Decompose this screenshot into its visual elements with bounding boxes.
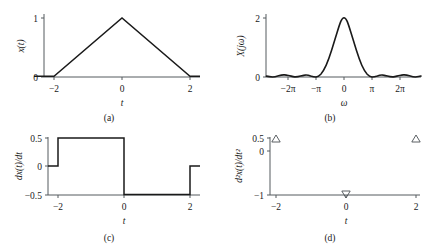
triangular-pulse-curve: [34, 18, 200, 76]
panel-c-axes: [45, 137, 200, 198]
panel-c-plot: −0.5 0 0.5 −2 0 2 t dx(t)/dt (c): [0, 124, 218, 249]
y-axis-label: X(jω): [236, 35, 247, 57]
x-tick-label-neg2pi: −2π: [281, 84, 296, 94]
x-tick-label-2: 2: [188, 84, 193, 94]
panel-a: 0 1 −2 0 2 t x(t) (a): [0, 0, 218, 125]
y-axis-label: d²x(t)/dt²: [234, 149, 245, 183]
y-axis-label: dx(t)/dt: [14, 152, 25, 180]
y-tick-label-1: 1: [33, 14, 38, 24]
y-tick-label-0: 0: [33, 73, 38, 83]
impulse-marker-2: [412, 135, 420, 142]
derivative-square-curve: [48, 138, 200, 194]
y-axis-label: x(t): [16, 39, 27, 53]
figure-container: 0 1 −2 0 2 t x(t) (a) 0 2: [0, 0, 435, 249]
x-tick-label-2pi: 2π: [395, 84, 405, 94]
y-tick-label-0: 0: [259, 147, 264, 157]
impulse-marker-neg2: [272, 135, 280, 142]
panel-b-axes: [263, 14, 421, 80]
panel-d-plot: −1 0 0.5 −2 0 2 t d²x(t)/dt² (d): [218, 124, 435, 249]
y-tick-label-2: 2: [255, 14, 260, 24]
panel-a-axes: [41, 14, 200, 80]
x-tick-label-2: 2: [188, 202, 193, 212]
y-tick-label-neg05: −0.5: [25, 191, 42, 201]
x-tick-label-neg2: −2: [49, 84, 59, 94]
panel-d-axes: [267, 137, 420, 198]
x-tick-label-pi: π: [370, 84, 375, 94]
x-tick-label-0: 0: [342, 84, 347, 94]
panel-b: 0 2 −2π −π 0 π 2π ω X(jω) (b): [218, 0, 435, 125]
panel-c: −0.5 0 0.5 −2 0 2 t dx(t)/dt (c): [0, 124, 218, 249]
y-tick-label-0: 0: [37, 162, 42, 172]
panel-a-plot: 0 1 −2 0 2 t x(t) (a): [0, 0, 218, 125]
panel-label-d: (d): [324, 233, 335, 244]
x-tick-label-0: 0: [344, 202, 349, 212]
panel-label-b: (b): [324, 113, 335, 124]
y-tick-label-05: 0.5: [30, 134, 42, 144]
panel-b-plot: 0 2 −2π −π 0 π 2π ω X(jω) (b): [218, 0, 435, 125]
x-tick-label-0: 0: [122, 202, 127, 212]
x-tick-label-2: 2: [414, 202, 419, 212]
x-tick-label-negpi: −π: [311, 84, 321, 94]
x-axis-label: t: [123, 216, 126, 226]
y-tick-label-neg1: −1: [254, 191, 264, 201]
y-tick-label-0: 0: [255, 73, 260, 83]
x-axis-label: t: [345, 216, 348, 226]
y-tick-label-05: 0.5: [252, 134, 264, 144]
x-tick-label-0: 0: [120, 84, 125, 94]
panel-label-c: (c): [104, 233, 115, 244]
x-tick-label-neg2: −2: [53, 202, 63, 212]
x-axis-label: ω: [341, 98, 348, 108]
spectrum-curve: [267, 18, 422, 77]
x-tick-label-neg2: −2: [271, 202, 281, 212]
panel-d: −1 0 0.5 −2 0 2 t d²x(t)/dt² (d): [218, 124, 435, 249]
panel-label-a: (a): [104, 113, 115, 124]
x-axis-label: t: [121, 98, 124, 108]
